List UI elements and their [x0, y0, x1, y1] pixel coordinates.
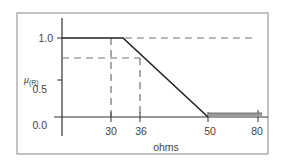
y-tick-label-0-0: 0.0 — [32, 119, 47, 131]
y-axis-label: μ(R) — [23, 75, 39, 87]
shaded-band — [208, 113, 262, 117]
x-tick-label-30: 30 — [105, 125, 117, 137]
x-tick-label-36: 36 — [135, 125, 147, 137]
x-axis-label: ohms — [153, 141, 179, 153]
x-tick-label-80: 80 — [251, 125, 263, 137]
y-tick-label-1-0: 1.0 — [38, 32, 53, 44]
membership-curve — [62, 38, 208, 117]
membership-function-chart: 1.0 0.5 0.0 μ(R) 30 36 50 80 ohms — [0, 0, 289, 166]
x-tick-label-50: 50 — [204, 125, 216, 137]
